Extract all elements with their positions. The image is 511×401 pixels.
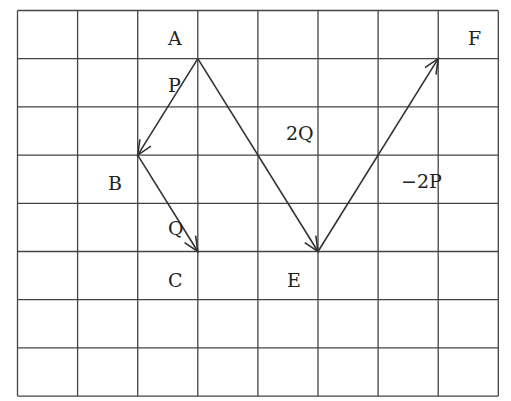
grid [18,11,499,397]
point-label-f: F [468,27,481,49]
vector-label: P [168,74,181,96]
vector-label: Q [168,217,184,239]
point-label-e: E [287,269,301,291]
vector-grid-diagram: PQ2Q−2PABCEF [0,0,511,401]
vector-label: −2P [401,170,442,192]
point-label-a: A [167,27,182,49]
point-label-b: B [108,172,122,194]
vector-label: 2Q [286,122,314,144]
point-label-c: C [168,269,183,291]
